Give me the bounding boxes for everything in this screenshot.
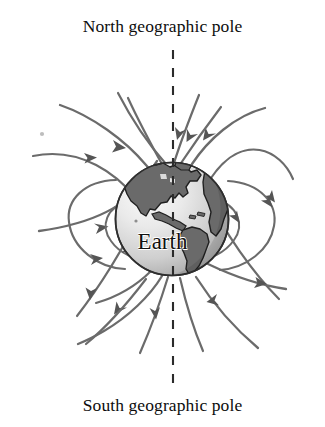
magnetic-field-figure: North geographic pole <box>0 0 325 427</box>
field-line-lower-right-axis <box>180 278 203 351</box>
hudson-bay-speck <box>160 174 167 179</box>
field-line-lower-right-2 <box>196 277 258 348</box>
south-pole-label: South geographic pole <box>0 395 325 416</box>
field-line-lower-right-1 <box>208 264 286 289</box>
earth-magnetic-field-diagram <box>0 0 325 427</box>
page-speck <box>40 132 44 136</box>
earth-globe <box>116 160 235 276</box>
ocean-speck-left <box>134 219 137 222</box>
field-line-axis-right <box>174 95 199 163</box>
caribbean-islands <box>189 215 196 219</box>
